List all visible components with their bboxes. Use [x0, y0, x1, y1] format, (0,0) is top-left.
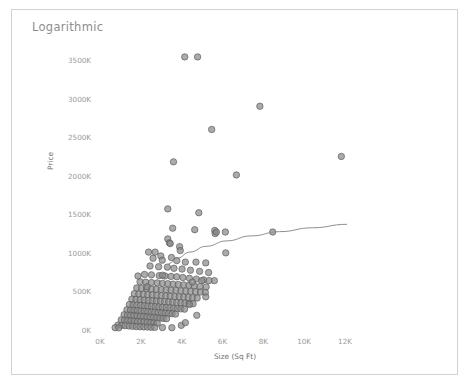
- y-axis-label: Price: [46, 152, 55, 170]
- chart-title: Logarithmic: [32, 20, 103, 34]
- x-tick-label: 12K: [329, 337, 361, 346]
- x-tick-label: 2K: [125, 337, 157, 346]
- y-tick-label: 2500K: [55, 133, 91, 142]
- x-tick-label: 8K: [247, 337, 279, 346]
- x-tick-label: 0K: [84, 337, 116, 346]
- y-tick-label: 1000K: [55, 249, 91, 258]
- y-tick-label: 3000K: [55, 95, 91, 104]
- x-tick-label: 6K: [207, 337, 239, 346]
- y-tick-label: 3500K: [55, 56, 91, 65]
- x-tick-label: 4K: [166, 337, 198, 346]
- x-axis-label: Size (Sq Ft): [0, 352, 470, 361]
- x-tick-label: 10K: [288, 337, 320, 346]
- y-tick-label: 500K: [55, 287, 91, 296]
- y-tick-label: 0K: [55, 326, 91, 335]
- y-tick-label: 1500K: [55, 210, 91, 219]
- y-tick-label: 2000K: [55, 172, 91, 181]
